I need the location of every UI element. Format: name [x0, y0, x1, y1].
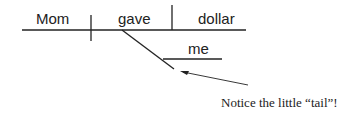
- indirect-object-slant: [122, 30, 174, 69]
- direct-object-word: dollar: [198, 11, 235, 26]
- indirect-object-word: me: [188, 41, 209, 56]
- annotation-note: Notice the little “tail”!: [221, 96, 338, 109]
- verb-word: gave: [118, 11, 151, 26]
- arrow-head-icon: [180, 71, 189, 75]
- arrow-shaft: [183, 72, 248, 85]
- subject-word: Mom: [36, 11, 69, 26]
